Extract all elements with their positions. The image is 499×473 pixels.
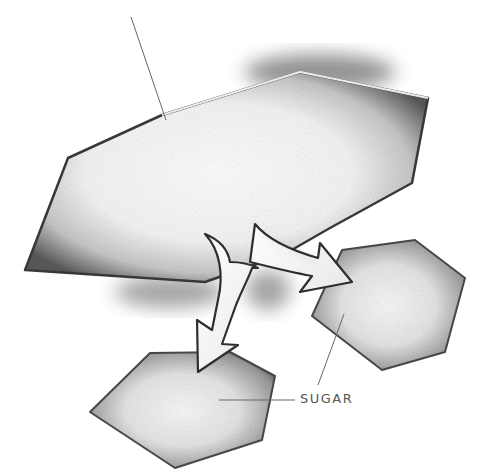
leader-line-large-molecule: [131, 17, 166, 120]
molecule-breakdown-diagram: [0, 0, 499, 473]
small-molecule-bottom-hexagon: [90, 352, 275, 468]
sugar-label: SUGAR: [300, 391, 353, 406]
diagram-canvas: SUGAR: [0, 0, 499, 473]
